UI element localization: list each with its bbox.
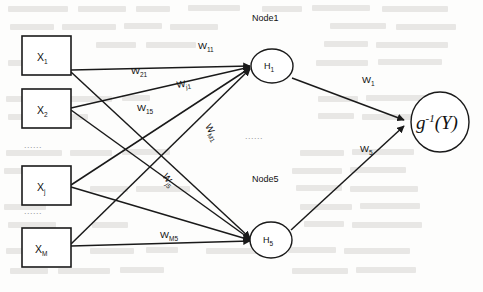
weight-label-w1: W1: [362, 74, 375, 87]
edge-x2-h1: [71, 67, 250, 108]
edge-xM-h5: [71, 241, 250, 246]
weight-label-wj1: Wj1: [176, 77, 192, 92]
edge-x1-h1: [71, 66, 250, 70]
weight-label-w5: W5: [360, 143, 373, 156]
hidden-group-label-bottom: Node5: [252, 174, 279, 184]
input-ellipsis-lower: ......: [24, 206, 42, 216]
weight-label-wj5: Wj5: [158, 171, 177, 190]
input-node-x2[interactable]: [22, 89, 71, 128]
edge-xM-h1: [71, 69, 250, 244]
weight-label-w15: W15: [137, 102, 154, 115]
edge-h1-output: [292, 78, 404, 120]
input-node-x1[interactable]: [22, 36, 71, 75]
weight-label-w11: W11: [198, 40, 214, 53]
edge-x2-h5: [71, 110, 250, 239]
network-diagram: X1 X2 ...... Xj ...... XM Node1 H1 .....…: [0, 0, 483, 292]
weight-label-wM5: WM5: [160, 229, 178, 242]
weight-label-w21: W21: [131, 65, 148, 78]
edge-h5-output: [291, 126, 404, 230]
input-node-xj[interactable]: [22, 166, 71, 205]
weight-label-wM1: WM1: [202, 122, 222, 144]
hidden-group-label-top: Node1: [252, 13, 279, 23]
output-node-label: g-1(Y): [416, 112, 458, 134]
figure-canvas: X1 X2 ...... Xj ...... XM Node1 H1 .....…: [0, 0, 483, 292]
input-node-xM[interactable]: [22, 228, 71, 267]
edge-xj-h1: [71, 68, 250, 185]
input-ellipsis-upper: ......: [24, 140, 42, 150]
hidden-ellipsis: ......: [245, 131, 263, 141]
